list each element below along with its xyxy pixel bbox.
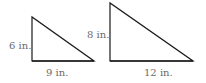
small-triangle-base-label: 9 in. bbox=[46, 67, 68, 78]
large-triangle: 8 in. 12 in. bbox=[87, 3, 193, 78]
similar-triangles-diagram: 6 in. 9 in. 8 in. 12 in. bbox=[0, 0, 206, 83]
small-triangle-height-label: 6 in. bbox=[9, 40, 31, 51]
large-triangle-base-label: 12 in. bbox=[144, 67, 173, 78]
small-triangle: 6 in. 9 in. bbox=[9, 17, 94, 78]
small-triangle-shape bbox=[32, 17, 94, 61]
large-triangle-height-label: 8 in. bbox=[87, 29, 109, 40]
large-triangle-shape bbox=[110, 3, 193, 61]
